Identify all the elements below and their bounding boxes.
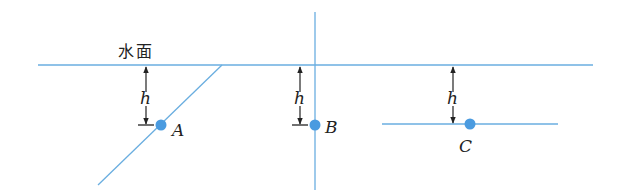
depth-label-h: h: [294, 88, 305, 108]
case-b-vertical: h B: [292, 12, 338, 190]
pressure-depth-diagram: 水面 h A h B h C: [0, 0, 620, 196]
point-b-label: B: [324, 117, 338, 137]
water-surface-label: 水面: [118, 42, 154, 61]
point-a-dot: [156, 120, 167, 131]
case-c-horizontal: h C: [382, 67, 558, 156]
point-c-dot: [465, 119, 476, 130]
case-a-inclined: h A: [98, 65, 222, 185]
depth-label-h: h: [447, 88, 458, 108]
depth-label-h: h: [140, 88, 151, 108]
point-b-dot: [310, 120, 321, 131]
point-c-label: C: [459, 136, 472, 156]
point-a-label: A: [170, 120, 184, 140]
